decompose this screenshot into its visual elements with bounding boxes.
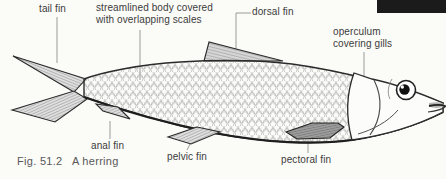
label-operculum: operculum covering gills <box>333 26 392 49</box>
label-dorsal-fin: dorsal fin <box>252 6 294 18</box>
dorsal-fin-shape <box>204 42 283 61</box>
label-tail-fin: tail fin <box>39 3 66 15</box>
eye-pupil <box>399 84 409 94</box>
figure-caption: Fig. 51.2 A herring <box>17 155 119 167</box>
eye-highlight <box>401 85 404 88</box>
tail-fin-lower-lobe <box>12 91 87 122</box>
tail-fin-upper-lobe <box>13 56 86 92</box>
label-pectoral-fin: pectoral fin <box>281 154 331 166</box>
label-anal-fin: anal fin <box>91 140 124 152</box>
label-body: streamlined body covered with overlappin… <box>96 2 213 25</box>
fish-head <box>348 73 443 140</box>
label-pelvic-fin: pelvic fin <box>167 151 207 163</box>
figure-diagram: tail fin streamlined body covered with o… <box>0 0 446 179</box>
